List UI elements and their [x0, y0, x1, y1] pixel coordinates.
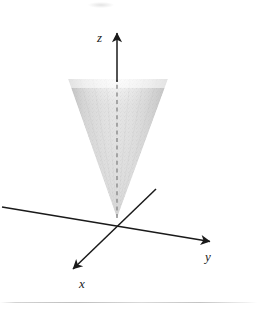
y-axis-label: y	[205, 250, 211, 263]
figure-container: z y x	[0, 0, 257, 314]
x-axis-label: x	[79, 277, 85, 290]
scan-smudge	[88, 2, 114, 8]
axes-cone-diagram	[0, 0, 257, 314]
scan-line-artifact	[0, 302, 257, 303]
cone-top-fade	[60, 72, 178, 88]
z-axis-label: z	[97, 31, 102, 44]
cone-stipple-texture	[60, 72, 178, 226]
cone-shape	[60, 72, 178, 226]
